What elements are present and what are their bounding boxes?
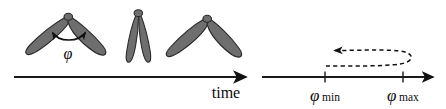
wing-pivot-1 <box>64 13 73 20</box>
wing-left-blade-2 <box>126 14 138 63</box>
wing-right-blade-3 <box>207 19 242 57</box>
wing-right-blade-1 <box>68 17 106 55</box>
wing-pose-3 <box>166 15 241 57</box>
wing-pivot-2 <box>134 10 142 17</box>
wing-left-blade-3 <box>166 19 208 57</box>
wing-pose-2 <box>126 10 151 62</box>
phi-max-label: φ max <box>387 86 419 105</box>
wing-right-blade-2 <box>139 14 151 63</box>
phi-max-symbol: φ <box>387 86 396 105</box>
phi-min-subscript: min <box>322 91 340 103</box>
angle-label: φ <box>64 45 73 63</box>
phi-max-subscript: max <box>399 91 419 103</box>
time-axis-label: time <box>212 84 240 101</box>
figure-root: φ time φ min φ max <box>0 0 446 109</box>
wing-pivot-3 <box>203 15 212 22</box>
phi-min-symbol: φ <box>310 86 319 105</box>
figure-canvas: φ time φ min φ max <box>0 0 446 109</box>
phi-min-label: φ min <box>310 86 340 105</box>
stroke-cycle-loop <box>326 50 411 66</box>
